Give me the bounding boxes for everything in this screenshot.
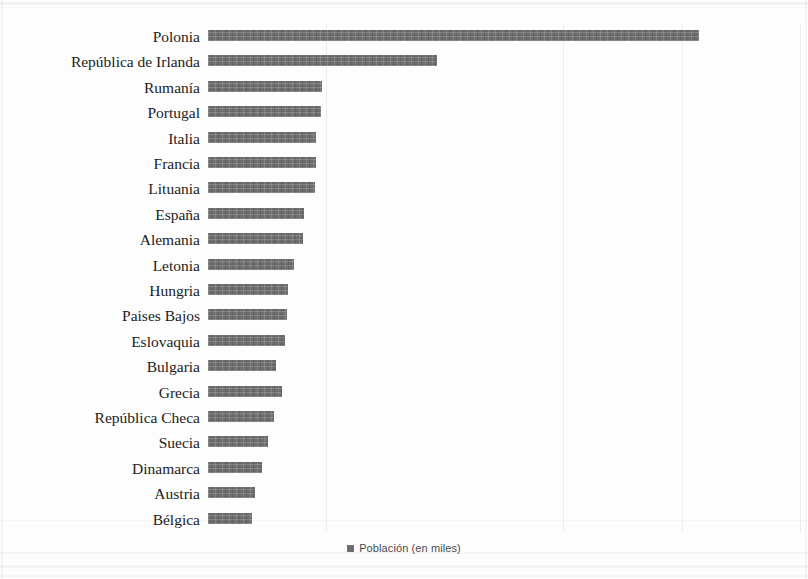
bar bbox=[208, 386, 282, 397]
bar bbox=[208, 284, 288, 295]
bar bbox=[208, 106, 321, 117]
bar-row bbox=[208, 24, 800, 49]
category-label: Paises Bajos bbox=[0, 303, 200, 328]
bar bbox=[208, 182, 315, 193]
bar bbox=[208, 436, 268, 447]
category-label: Bulgaria bbox=[0, 354, 200, 379]
bar-row bbox=[208, 430, 800, 455]
legend-label-poblacion: Población (en miles) bbox=[359, 542, 461, 554]
bar-row bbox=[208, 405, 800, 430]
bar bbox=[208, 360, 276, 371]
bar-row bbox=[208, 354, 800, 379]
category-label: España bbox=[0, 202, 200, 227]
bar-row bbox=[208, 253, 800, 278]
category-axis-labels: PoloniaRepública de IrlandaRumaníaPortug… bbox=[0, 24, 200, 532]
category-label: República de Irlanda bbox=[0, 49, 200, 74]
bar-row bbox=[208, 507, 800, 532]
bar-row bbox=[208, 303, 800, 328]
bar-row bbox=[208, 202, 800, 227]
bar-row bbox=[208, 49, 800, 74]
bar-row bbox=[208, 100, 800, 125]
bar-row bbox=[208, 278, 800, 303]
category-label: Lituania bbox=[0, 176, 200, 201]
category-label: Eslovaquia bbox=[0, 329, 200, 354]
bar bbox=[208, 513, 252, 524]
category-label: Hungria bbox=[0, 278, 200, 303]
bar bbox=[208, 309, 287, 320]
bar-row bbox=[208, 456, 800, 481]
bar-row bbox=[208, 75, 800, 100]
category-label: República Checa bbox=[0, 405, 200, 430]
category-label: Dinamarca bbox=[0, 456, 200, 481]
bar-row bbox=[208, 151, 800, 176]
bar-row bbox=[208, 227, 800, 252]
bar bbox=[208, 55, 437, 66]
bar-row bbox=[208, 176, 800, 201]
bar bbox=[208, 30, 699, 41]
bar-chart: PoloniaRepública de IrlandaRumaníaPortug… bbox=[0, 0, 808, 579]
bar-row bbox=[208, 329, 800, 354]
bar bbox=[208, 132, 316, 143]
bar bbox=[208, 462, 262, 473]
bar bbox=[208, 335, 285, 346]
bar-row bbox=[208, 481, 800, 506]
bar bbox=[208, 157, 316, 168]
category-label: Alemania bbox=[0, 227, 200, 252]
category-label: Portugal bbox=[0, 100, 200, 125]
bar-row bbox=[208, 126, 800, 151]
category-label: Polonia bbox=[0, 24, 200, 49]
bar bbox=[208, 259, 294, 270]
category-label: Rumanía bbox=[0, 75, 200, 100]
plot-area bbox=[208, 24, 800, 532]
bar bbox=[208, 411, 274, 422]
bar bbox=[208, 487, 255, 498]
category-label: Italia bbox=[0, 126, 200, 151]
bar-row bbox=[208, 380, 800, 405]
legend-swatch-poblacion bbox=[347, 545, 354, 552]
category-label: Bélgica bbox=[0, 507, 200, 532]
bar bbox=[208, 233, 303, 244]
category-label: Suecia bbox=[0, 430, 200, 455]
gridline bbox=[800, 24, 801, 532]
category-label: Austria bbox=[0, 481, 200, 506]
category-label: Grecia bbox=[0, 380, 200, 405]
bar bbox=[208, 81, 322, 92]
chart-legend: Población (en miles) bbox=[0, 542, 808, 554]
category-label: Francia bbox=[0, 151, 200, 176]
bar bbox=[208, 208, 304, 219]
category-label: Letonia bbox=[0, 253, 200, 278]
